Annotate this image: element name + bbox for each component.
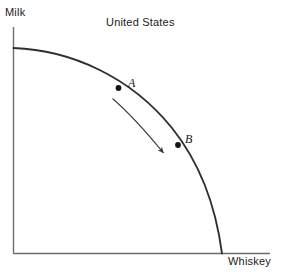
point-a-marker (116, 85, 122, 91)
point-a-label: A (128, 76, 135, 91)
y-axis-label: Milk (5, 6, 25, 18)
chart-title: United States (106, 16, 175, 28)
ppf-chart-figure: United States Milk Whiskey A B (0, 0, 287, 280)
movement-arrow (113, 99, 164, 154)
x-axis-label: Whiskey (228, 255, 271, 267)
ppf-curve (14, 48, 223, 254)
ppf-chart-canvas (0, 0, 287, 280)
point-b-label: B (185, 132, 192, 147)
point-b-marker (175, 142, 181, 148)
